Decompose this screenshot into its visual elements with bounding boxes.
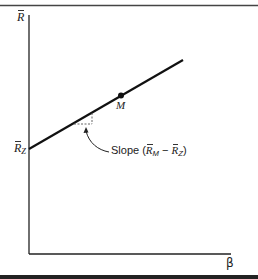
point-label: M <box>116 100 125 111</box>
slope-pointer-curve <box>86 131 109 152</box>
arrowhead-icon <box>84 127 89 133</box>
x-axis-label: β <box>226 257 234 269</box>
market-portfolio-point <box>118 93 124 99</box>
security-market-line <box>29 60 183 149</box>
y-axis-label: R <box>17 11 24 23</box>
intercept-label: RZ <box>14 142 26 156</box>
slope-diagram: R RZ M Slope (RM − RZ) β <box>0 0 258 279</box>
y-axis-label-text: R <box>17 11 24 23</box>
slope-minus: − <box>159 144 172 156</box>
diagram-canvas <box>0 0 258 279</box>
slope-rm: R <box>146 145 153 156</box>
slope-prefix: Slope ( <box>111 144 146 156</box>
slope-suffix: ) <box>183 144 187 156</box>
slope-rz: R <box>172 145 179 156</box>
intercept-label-sub: Z <box>21 147 26 156</box>
slope-annotation: Slope (RM − RZ) <box>111 145 187 158</box>
bottom-border <box>0 275 258 279</box>
intercept-label-main: R <box>14 142 21 154</box>
